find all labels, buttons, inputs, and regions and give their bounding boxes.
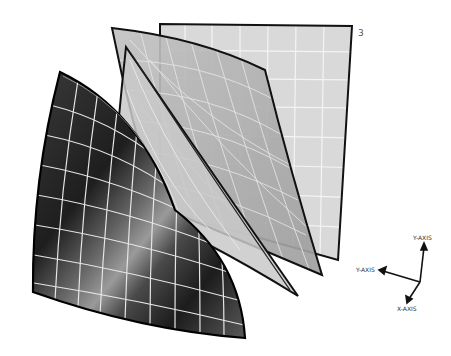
layered-surfaces-diagram: 3 Y-AXIS Y-AXIS X-AXIS xyxy=(0,0,451,356)
axis-label-down: X-AXIS xyxy=(397,305,417,312)
axis-label-up: Y-AXIS xyxy=(413,234,432,241)
axis-indicator xyxy=(379,243,427,303)
y-axis-arrowhead-icon xyxy=(421,243,427,250)
left-axis-arrowhead-icon xyxy=(379,267,386,274)
layer-number-label: 3 xyxy=(358,28,364,38)
axis-label-left: Y-AXIS xyxy=(356,266,375,273)
